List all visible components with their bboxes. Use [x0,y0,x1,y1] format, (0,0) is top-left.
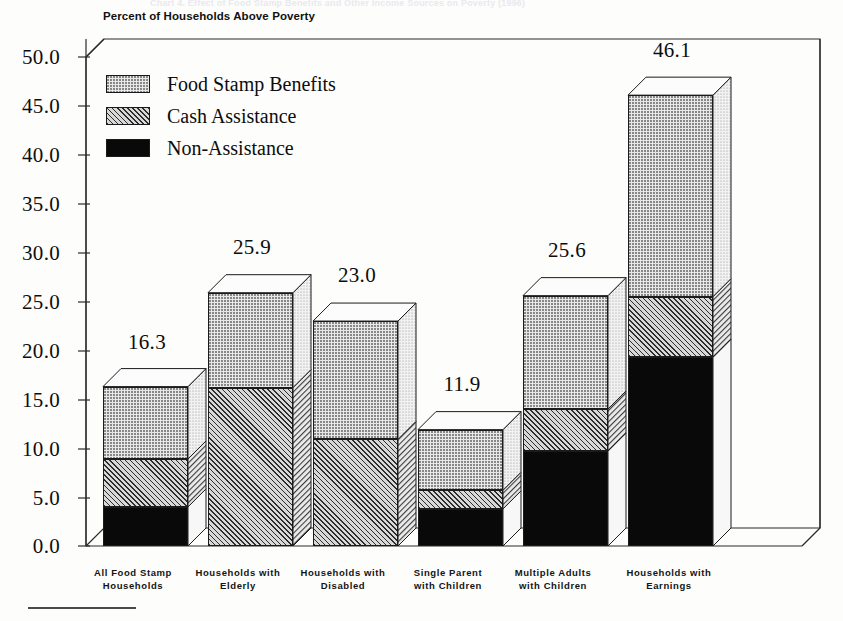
bar-top-face [208,275,311,293]
bar-value-label: 11.9 [416,372,508,397]
bar-segment-side-face-food-stamp-benefits [713,77,731,296]
bar-segment-cash-assistance[interactable] [418,490,503,509]
x-category-label-households-with-disabled: Households with Disabled [283,566,403,592]
bar-segment-food-stamp-benefits[interactable] [523,296,608,409]
x-category-label-multiple-adults-with-children: Multiple Adults with Children [493,566,613,592]
bar-segment-side-face-food-stamp-benefits [188,369,206,459]
bar-segment-side-face-non-assistance [608,433,626,546]
bar-segment-food-stamp-benefits[interactable] [208,293,293,388]
x-category-label-line: Households with [283,566,403,579]
bar-value-label: 23.0 [311,263,403,288]
x-category-label-all-food-stamp-households: All Food Stamp Households [73,566,193,592]
x-category-label-line: Households [73,579,193,592]
bar-segment-non-assistance[interactable] [103,507,188,546]
bar-segment-side-face-food-stamp-benefits [503,412,521,491]
bar-top-face [103,369,206,387]
chart-page: Chart 4. Effect of Food Stamp Benefits a… [0,0,843,621]
bar-segment-side-face-cash-assistance [503,472,521,509]
bar-segment-cash-assistance[interactable] [208,388,293,546]
x-category-label-line: Multiple Adults [493,566,613,579]
x-category-label-households-with-earnings: Households with Earnings [604,566,734,592]
bar-top-face [313,303,416,321]
x-category-label-line: Earnings [604,579,734,592]
x-category-label-single-parent-with-children: Single Parent with Children [388,566,508,592]
bar-segment-side-face-cash-assistance [188,441,206,507]
bar-value-label: 16.3 [101,330,193,355]
bar-segment-side-face-food-stamp-benefits [608,278,626,409]
bar-value-label: 25.6 [521,238,613,263]
bar-segment-cash-assistance[interactable] [313,439,398,546]
bar-segment-side-face-non-assistance [503,491,521,546]
bar-segment-side-face-cash-assistance [713,279,731,358]
bar-segment-food-stamp-benefits[interactable] [418,430,503,491]
bar-top-face [523,278,626,296]
x-category-label-line: Households with [178,566,298,579]
x-category-label-households-with-elderly: Households with Elderly [178,566,298,592]
bar-segment-cash-assistance[interactable] [103,459,188,507]
bar-segment-side-face-cash-assistance [608,391,626,451]
bars-layer [0,0,843,621]
bar-segment-side-face-non-assistance [713,339,731,546]
bar-segment-side-face-cash-assistance [398,421,416,546]
footnote-rule [28,607,136,609]
bar-value-label: 46.1 [626,38,718,63]
bar-segment-side-face-non-assistance [188,489,206,546]
bar-segment-non-assistance[interactable] [523,451,608,546]
x-category-label-line: Households with [604,566,734,579]
x-category-label-line: Disabled [283,579,403,592]
bar-segment-cash-assistance[interactable] [523,409,608,451]
x-category-label-line: Single Parent [388,566,508,579]
bar-segment-side-face-food-stamp-benefits [293,275,311,388]
bar-top-face [628,77,731,95]
bar-segment-side-face-cash-assistance [293,370,311,546]
x-category-label-line: with Children [493,579,613,592]
bar-segment-side-face-food-stamp-benefits [398,303,416,439]
bar-value-label: 25.9 [206,235,298,260]
bar-segment-food-stamp-benefits[interactable] [313,321,398,439]
bar-segment-non-assistance[interactable] [628,357,713,546]
bar-segment-non-assistance[interactable] [418,509,503,546]
bar-top-face [418,412,521,430]
x-category-label-line: All Food Stamp [73,566,193,579]
x-category-label-line: Elderly [178,579,298,592]
bar-segment-food-stamp-benefits[interactable] [628,95,713,296]
x-category-label-line: with Children [388,579,508,592]
bar-segment-cash-assistance[interactable] [628,297,713,358]
bar-segment-food-stamp-benefits[interactable] [103,387,188,459]
